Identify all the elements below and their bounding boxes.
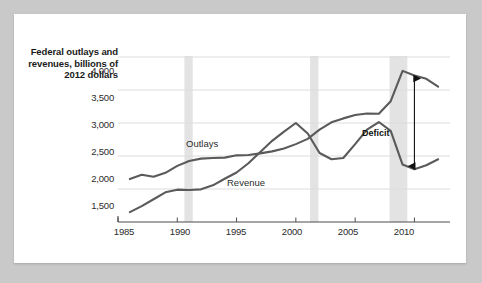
axis-ticks — [118, 218, 414, 223]
x-tick-label: 2000 — [269, 226, 315, 237]
y-tick-label: 2,500 — [74, 146, 114, 157]
y-tick-label: 4,000 — [74, 65, 114, 76]
series-label-outlays: Outlays — [186, 138, 218, 149]
y-tick-label: 2,000 — [74, 173, 114, 184]
chart-figure: Federal outlays and revenues, billions o… — [14, 14, 466, 263]
y-tick-label: 1,500 — [74, 200, 114, 211]
x-tick-label: 1995 — [213, 226, 259, 237]
x-tick-label: 2010 — [381, 226, 427, 237]
deficit-annotation-label: Deficit — [362, 128, 390, 138]
series-label-revenue: Revenue — [227, 177, 265, 188]
x-tick-label: 1990 — [157, 226, 203, 237]
y-tick-label: 3,500 — [74, 92, 114, 103]
x-tick-label: 1985 — [101, 226, 147, 237]
y-tick-label: 3,000 — [74, 119, 114, 130]
chart-card: Federal outlays and revenues, billions o… — [14, 14, 466, 263]
x-tick-label: 2005 — [325, 226, 371, 237]
